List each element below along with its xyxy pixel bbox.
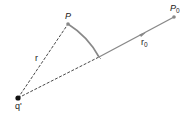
field-point-dot-icon (66, 22, 70, 26)
label-P: P (65, 11, 71, 21)
reference-point-dot-icon (172, 15, 176, 19)
label-P0: P0 (170, 3, 180, 14)
label-r0: r0 (141, 37, 148, 48)
label-r: r (35, 53, 38, 63)
segment-r (18, 24, 68, 98)
segment-r0-dashed (18, 57, 99, 98)
segment-r0-solid (99, 17, 174, 57)
arc (68, 24, 99, 57)
source-charge-dot-icon (15, 95, 20, 100)
label-q-prime: q' (15, 101, 22, 111)
diagram-canvas: P P0 r r0 q' (0, 0, 186, 114)
